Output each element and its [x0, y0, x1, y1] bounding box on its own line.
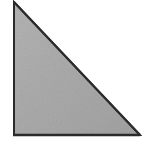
triangle-figure — [0, 0, 153, 146]
figure-canvas — [0, 0, 153, 146]
